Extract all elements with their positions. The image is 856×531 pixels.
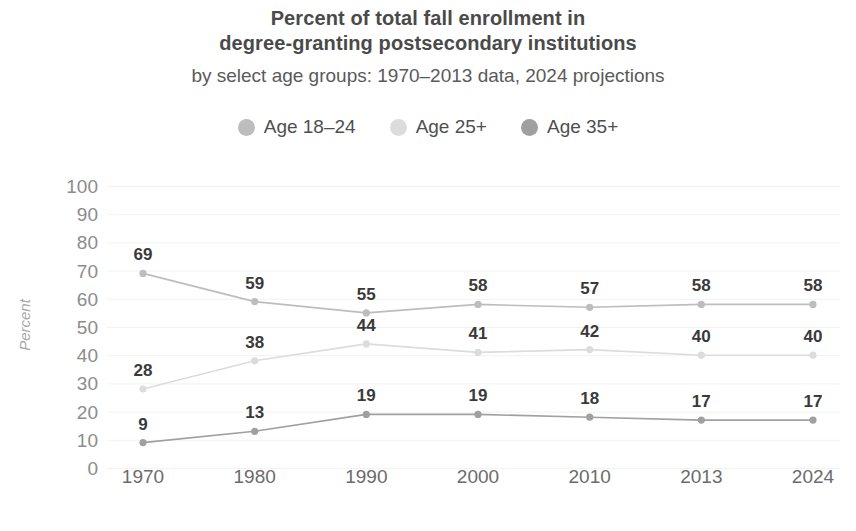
- data-point-marker[interactable]: [139, 439, 146, 446]
- data-point-label: 13: [245, 403, 264, 422]
- data-point-label: 17: [804, 392, 823, 411]
- plot-svg: 1009080706050403020100Percent19701980199…: [0, 0, 856, 531]
- y-axis-ticks: 1009080706050403020100: [66, 176, 98, 479]
- x-tick-label[interactable]: 1980: [234, 466, 276, 487]
- y-tick-label: 60: [77, 289, 98, 310]
- data-point-label: 58: [692, 276, 711, 295]
- data-point-marker[interactable]: [251, 298, 258, 305]
- data-point-marker[interactable]: [363, 340, 370, 347]
- series-2: [139, 340, 816, 392]
- data-point-marker[interactable]: [698, 352, 705, 359]
- data-point-label: 40: [692, 327, 711, 346]
- plot-area: 1009080706050403020100Percent19701980199…: [0, 0, 856, 531]
- data-point-label: 44: [357, 316, 376, 335]
- x-tick-label[interactable]: 2024: [792, 466, 835, 487]
- data-point-label: 41: [469, 324, 488, 343]
- series-line: [143, 414, 813, 442]
- x-axis-ticks: 1970198019902000201020132024: [122, 466, 835, 487]
- data-point-label: 19: [357, 386, 376, 405]
- y-tick-label: 80: [77, 232, 98, 253]
- source-note: [0, 518, 856, 531]
- data-point-marker[interactable]: [139, 270, 146, 277]
- data-point-label: 18: [580, 389, 599, 408]
- data-point-label: 55: [357, 285, 376, 304]
- data-point-marker[interactable]: [474, 349, 481, 356]
- y-tick-label: 90: [77, 204, 98, 225]
- data-point-label: 58: [469, 276, 488, 295]
- data-point-marker[interactable]: [474, 411, 481, 418]
- data-point-label: 59: [245, 274, 264, 293]
- y-tick-label: 30: [77, 373, 98, 394]
- y-tick-label: 100: [66, 176, 98, 197]
- x-tick-label[interactable]: 2000: [457, 466, 499, 487]
- data-point-marker[interactable]: [139, 385, 146, 392]
- data-point-label: 58: [804, 276, 823, 295]
- y-axis-title: Percent: [16, 298, 33, 351]
- data-point-label: 40: [804, 327, 823, 346]
- y-tick-label: 20: [77, 402, 98, 423]
- x-tick-label[interactable]: 2013: [680, 466, 722, 487]
- data-point-label: 17: [692, 392, 711, 411]
- x-tick-label[interactable]: 2010: [569, 466, 611, 487]
- data-point-label: 42: [580, 322, 599, 341]
- y-tick-label: 0: [87, 458, 98, 479]
- series-3: [139, 411, 816, 446]
- data-point-label: 38: [245, 333, 264, 352]
- data-point-marker[interactable]: [809, 417, 816, 424]
- x-tick-label[interactable]: 1990: [345, 466, 387, 487]
- y-tick-label: 50: [77, 317, 98, 338]
- chart-container: Percent of total fall enrollment in degr…: [0, 0, 856, 531]
- data-point-marker[interactable]: [586, 414, 593, 421]
- series-2-labels: 28384441424040: [134, 316, 823, 380]
- x-tick-label[interactable]: 1970: [122, 466, 164, 487]
- data-point-marker[interactable]: [698, 301, 705, 308]
- data-point-label: 19: [469, 386, 488, 405]
- data-point-marker[interactable]: [251, 428, 258, 435]
- data-point-marker[interactable]: [809, 301, 816, 308]
- data-point-marker[interactable]: [251, 357, 258, 364]
- series-1-labels: 69595558575858: [134, 245, 823, 304]
- data-point-label: 57: [580, 279, 599, 298]
- series-3-labels: 9131919181717: [138, 386, 822, 433]
- data-point-label: 28: [134, 361, 153, 380]
- y-tick-label: 70: [77, 261, 98, 282]
- data-point-marker[interactable]: [586, 304, 593, 311]
- y-tick-label: 10: [77, 430, 98, 451]
- data-point-marker[interactable]: [809, 352, 816, 359]
- data-point-marker[interactable]: [474, 301, 481, 308]
- data-point-marker[interactable]: [698, 417, 705, 424]
- y-tick-label: 40: [77, 345, 98, 366]
- data-point-marker[interactable]: [586, 346, 593, 353]
- data-point-label: 69: [134, 245, 153, 264]
- data-point-marker[interactable]: [363, 411, 370, 418]
- data-point-label: 9: [138, 415, 147, 434]
